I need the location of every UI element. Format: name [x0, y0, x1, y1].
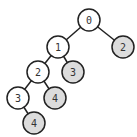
tree-node-shaded: 3	[62, 61, 84, 83]
node-label: 3	[70, 67, 76, 78]
tree-node: 2	[27, 61, 49, 83]
node-label: 4	[31, 118, 37, 129]
tree-node: 1	[47, 36, 69, 58]
node-label: 0	[86, 15, 92, 26]
tree-node-shaded: 4	[23, 112, 45, 134]
node-label: 3	[15, 93, 21, 104]
node-label: 1	[55, 42, 61, 53]
tree-nodes: 01223344	[7, 9, 134, 134]
node-label: 4	[52, 93, 58, 104]
node-label: 2	[120, 42, 126, 53]
tree-node: 0	[78, 9, 100, 31]
tree-node: 3	[7, 87, 29, 109]
tree-diagram: 01223344	[0, 0, 137, 137]
tree-node-shaded: 4	[44, 87, 66, 109]
tree-node-shaded: 2	[112, 36, 134, 58]
node-label: 2	[35, 67, 41, 78]
